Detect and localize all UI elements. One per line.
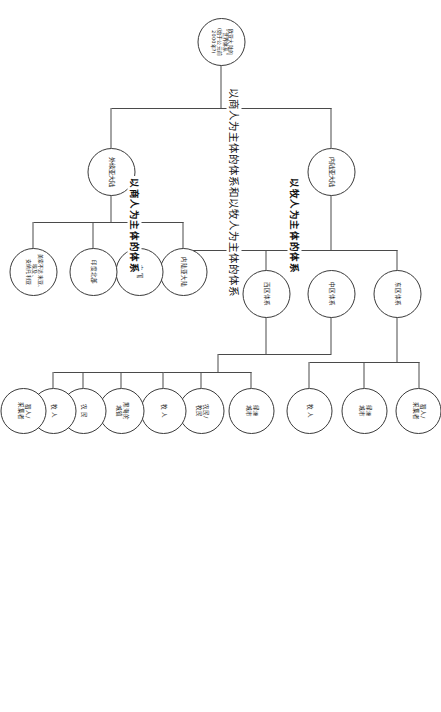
edge-root-spine — [220, 64, 221, 108]
edge-central-leafspine-b — [163, 372, 251, 373]
node-north-india-label: 印度北部 — [90, 258, 97, 287]
node-inner-eurasia-label: 内陆亚大陆 — [327, 155, 334, 190]
edge-merchant-spine — [33, 222, 183, 223]
node-east-oasis-label: 绿洲 城市 — [357, 403, 370, 419]
edge-central-to-leafspine — [330, 316, 331, 354]
edge-main-spine — [111, 108, 331, 109]
node-east-hunters[interactable]: 猎人/ 采集者 — [395, 388, 441, 434]
edge-central-leaf-3 — [162, 372, 163, 388]
node-west-farmers-label: 农 民 — [80, 402, 87, 420]
edge-west-leaf-2 — [82, 372, 83, 388]
node-central-zone-label: 中区体系 — [328, 280, 335, 309]
edge-spine-inner-eurasia — [330, 108, 331, 148]
edge-east-leaf-3 — [308, 362, 309, 388]
node-outer-eurasia-label: 外缘亚大陆 — [107, 155, 114, 190]
node-west-herders-label: 牧 人 — [50, 402, 57, 420]
node-central-farmer-herder-label: 农民/ 牧民 — [194, 402, 207, 421]
edge-west-leaf-3 — [52, 372, 53, 388]
edge-central-jog — [217, 354, 218, 372]
node-central-oasis[interactable]: 绿洲 城市 — [228, 388, 274, 434]
edge-east-leaf-1 — [418, 362, 419, 388]
node-mesopotamia[interactable]: 美索不达米亚、 埃及、 安纳托利亚 — [9, 248, 57, 296]
edge-spine-outer-eurasia — [110, 108, 111, 148]
diagram-canvas: 以牧人为主体的体系 以商人为主体的体系 以商人为主体的体系和以牧人为主体的体系 … — [0, 0, 441, 712]
edge-merchant-child-1 — [182, 222, 183, 250]
node-east-hunters-label: 猎人/ 采集者 — [411, 400, 424, 423]
edge-west-leafspine-a — [218, 354, 266, 355]
node-inner-asia[interactable]: 内陆亚大陆 — [159, 248, 207, 296]
branch-label-merchants: 以商人为主体的体系 — [127, 176, 141, 275]
edge-east-to-leafspine — [396, 316, 397, 362]
edge-east-leaf-2 — [363, 362, 364, 388]
edge-west-to-leafspine — [265, 316, 266, 354]
node-root-label: 欧亚大陆的 “世界体系” (始于公元前 2000年?) — [210, 26, 233, 58]
node-central-oasis-label: 绿洲 城市 — [244, 403, 257, 419]
edge-central-leaf-2 — [200, 372, 201, 388]
edge-merchant-child-3 — [92, 222, 93, 250]
node-east-herders[interactable]: 牧 人 — [286, 388, 332, 434]
node-east-zone-label: 东区体系 — [394, 280, 401, 309]
node-central-herders-label: 牧 人 — [160, 402, 167, 420]
diagram-title: 以商人为主体的体系和以牧人为主体的体系 — [226, 86, 241, 299]
node-root[interactable]: 欧亚大陆的 “世界体系” (始于公元前 2000年?) — [197, 18, 245, 66]
branch-label-herders: 以牧人为主体的体系 — [287, 176, 301, 275]
node-east-herders-label: 牧 人 — [306, 402, 313, 420]
node-mesopotamia-label: 美索不达米亚、 埃及、 安纳托利亚 — [24, 252, 41, 292]
node-west-hunters-label: 猎人/ 采集者 — [16, 400, 29, 423]
edge-merchant-child-4 — [32, 222, 33, 250]
node-east-oasis[interactable]: 绿洲 城市 — [341, 388, 387, 434]
node-central-herders[interactable]: 牧 人 — [140, 388, 186, 434]
edge-west-leaf-1 — [120, 372, 121, 388]
node-east-zone[interactable]: 东区体系 — [373, 270, 421, 318]
edge-west-leafspine-b — [53, 372, 163, 373]
node-west-hunters[interactable]: 猎人/ 采集者 — [0, 388, 46, 434]
node-west-blacksea-label: 黑海的 城镇 — [114, 400, 127, 423]
node-north-india[interactable]: 印度北部 — [69, 248, 117, 296]
node-inner-eurasia[interactable]: 内陆亚大陆 — [307, 148, 355, 196]
edge-central-leaf-1 — [250, 372, 251, 388]
node-west-zone[interactable]: 西区体系 — [242, 270, 290, 318]
node-west-zone-label: 西区体系 — [263, 280, 270, 309]
node-central-zone[interactable]: 中区体系 — [307, 270, 355, 318]
node-inner-asia-label: 内陆亚大陆 — [180, 255, 187, 290]
